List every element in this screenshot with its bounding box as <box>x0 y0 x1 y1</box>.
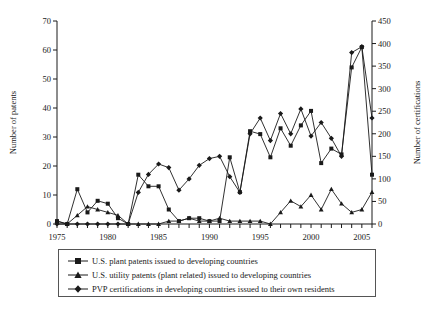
data-point-square <box>299 123 303 127</box>
data-point-diamond <box>369 115 374 120</box>
data-point-diamond <box>258 115 263 120</box>
series-line-2 <box>57 47 372 224</box>
x-axis-tick-label: 2000 <box>303 232 320 242</box>
data-point-square <box>228 155 232 159</box>
data-point-diamond <box>278 111 283 116</box>
data-point-triangle <box>309 193 314 197</box>
data-point-triangle <box>217 216 222 220</box>
data-point-square <box>268 155 272 159</box>
chart-figure: 0102030405060700501001502002503003504004… <box>0 0 433 312</box>
data-point-square <box>96 199 100 203</box>
data-point-square <box>309 109 313 113</box>
legend-marker-diamond-icon <box>67 284 89 294</box>
series-line-0 <box>57 47 372 224</box>
y-axis-left-tick-label: 10 <box>43 190 52 200</box>
data-point-triangle <box>85 204 90 208</box>
x-axis-tick-label: 1980 <box>99 232 116 242</box>
series-line-1 <box>57 189 372 224</box>
data-point-triangle <box>359 207 364 211</box>
data-point-square <box>258 132 262 136</box>
data-point-diamond <box>115 221 120 226</box>
data-point-square <box>136 173 140 177</box>
data-point-triangle <box>370 190 375 194</box>
data-point-square <box>370 173 374 177</box>
data-point-diamond <box>329 136 334 141</box>
legend-label-utility-patents: U.S. utility patents (plant related) iss… <box>92 270 311 280</box>
y-axis-left-tick-label: 70 <box>43 16 52 26</box>
x-axis-tick-label: 1975 <box>49 232 66 242</box>
data-point-diamond <box>75 221 80 226</box>
x-axis-tick-label: 1995 <box>252 232 269 242</box>
y-axis-right-tick-label: 100 <box>378 174 391 184</box>
y-axis-right-tick-label: 250 <box>378 106 391 116</box>
y-axis-left-tick-label: 60 <box>43 45 52 55</box>
x-axis-tick-label: 2005 <box>353 232 370 242</box>
data-point-triangle <box>288 198 293 202</box>
legend-label-pvp-certifications: PVP certifications in developing countri… <box>92 284 335 294</box>
data-point-square <box>329 147 333 151</box>
data-point-diamond <box>227 174 232 179</box>
data-point-triangle <box>329 187 334 191</box>
data-point-diamond <box>105 221 110 226</box>
data-point-square <box>157 184 161 188</box>
x-axis-tick-label: 1990 <box>201 232 218 242</box>
legend-item: U.S. utility patents (plant related) iss… <box>67 268 369 282</box>
y-axis-left-tick-label: 50 <box>43 74 52 84</box>
y-axis-right-tick-label: 300 <box>378 84 391 94</box>
data-point-diamond <box>85 221 90 226</box>
data-point-square <box>106 202 110 206</box>
y-axis-left-title: Number of patents <box>8 91 18 154</box>
legend-marker-square-icon <box>67 256 89 266</box>
legend-marker-triangle-icon <box>67 270 89 280</box>
data-point-diamond <box>166 165 171 170</box>
y-axis-right-tick-label: 450 <box>378 16 391 26</box>
chart-legend: U.S. plant patents issued to developing … <box>58 249 376 297</box>
y-axis-left-tick-label: 30 <box>43 132 52 142</box>
data-point-square <box>289 144 293 148</box>
data-point-square <box>319 161 323 165</box>
data-point-diamond <box>268 138 273 143</box>
y-axis-right-tick-label: 350 <box>378 61 391 71</box>
y-axis-right-tick-label: 150 <box>378 151 391 161</box>
data-point-square <box>167 208 171 212</box>
legend-item: U.S. plant patents issued to developing … <box>67 254 369 268</box>
data-point-diamond <box>288 131 293 136</box>
legend-label-plant-patents: U.S. plant patents issued to developing … <box>92 256 258 266</box>
y-axis-left-tick-label: 0 <box>47 219 51 229</box>
data-point-diamond <box>349 50 354 55</box>
data-point-square <box>75 187 79 191</box>
data-point-diamond <box>95 221 100 226</box>
data-point-square <box>85 210 89 214</box>
y-axis-right-tick-label: 50 <box>378 196 387 206</box>
y-axis-right-tick-label: 400 <box>378 39 391 49</box>
y-axis-right-tick-label: 200 <box>378 129 391 139</box>
x-axis-tick-label: 1985 <box>150 232 167 242</box>
data-point-diamond <box>136 190 141 195</box>
y-axis-right-title: Number of certifications <box>412 81 422 165</box>
data-point-square <box>279 126 283 130</box>
data-point-diamond <box>217 154 222 159</box>
data-point-square <box>146 184 150 188</box>
legend-item: PVP certifications in developing countri… <box>67 282 369 296</box>
y-axis-left-tick-label: 40 <box>43 103 52 113</box>
y-axis-right-tick-label: 0 <box>378 219 382 229</box>
data-point-diamond <box>207 156 212 161</box>
data-point-diamond <box>298 106 303 111</box>
y-axis-left-tick-label: 20 <box>43 161 52 171</box>
